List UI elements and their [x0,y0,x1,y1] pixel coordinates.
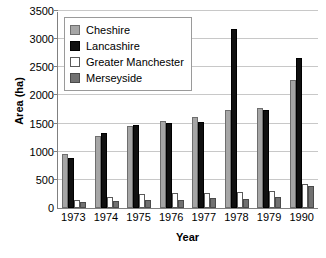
gridline-3500 [58,10,318,11]
x-tick-label-1990: 1990 [285,210,318,224]
x-axis-tick-labels: 19731974197519761977197819791990 [57,210,318,224]
bar-merseyside-1975 [145,200,151,208]
bar-group-1978 [221,12,254,208]
legend-swatch-lancashire-icon [70,41,80,51]
x-tick-label-1973: 1973 [57,210,90,224]
bar-merseyside-1977 [210,198,216,208]
legend-label-greater-manchester: Greater Manchester [86,56,184,68]
bar-merseyside-1976 [178,200,184,208]
legend-item-lancashire: Lancashire [70,38,184,54]
legend-item-cheshire: Cheshire [70,22,184,38]
y-tick-label-3500: 3500 [14,6,54,17]
bar-merseyside-1974 [113,201,119,208]
y-tick-mark-3500 [54,10,58,11]
x-tick-label-1975: 1975 [122,210,155,224]
legend-swatch-merseyside-icon [70,73,80,83]
legend: CheshireLancashireGreater ManchesterMers… [64,17,192,91]
y-tick-label-1000: 1000 [14,147,54,158]
bar-merseyside-1979 [275,197,281,208]
x-tick-label-1978: 1978 [220,210,253,224]
legend-swatch-greater-manchester-icon [70,57,80,67]
bar-merseyside-1973 [80,202,86,208]
legend-swatch-cheshire-icon [70,25,80,35]
bar-group-1979 [253,12,286,208]
x-axis-title: Year [57,231,318,243]
legend-item-merseyside: Merseyside [70,70,184,86]
bar-group-1977 [188,12,221,208]
y-tick-label-1500: 1500 [14,119,54,130]
bar-merseyside-1990 [308,186,314,208]
legend-item-greater-manchester: Greater Manchester [70,54,184,70]
y-tick-label-0: 0 [14,203,54,214]
bar-lancashire-1978 [231,29,237,208]
y-tick-label-2500: 2500 [14,62,54,73]
legend-label-merseyside: Merseyside [86,72,142,84]
x-tick-label-1979: 1979 [253,210,286,224]
y-tick-label-2000: 2000 [14,90,54,101]
y-tick-label-500: 500 [14,175,54,186]
x-tick-label-1974: 1974 [90,210,123,224]
bar-merseyside-1978 [243,199,249,208]
x-tick-label-1976: 1976 [155,210,188,224]
x-tick-label-1977: 1977 [188,210,221,224]
legend-label-lancashire: Lancashire [86,40,140,52]
y-tick-label-3000: 3000 [14,34,54,45]
legend-label-cheshire: Cheshire [86,24,130,36]
bar-group-1990 [286,12,319,208]
bar-chart: Area (ha) 0500100015002000250030003500 1… [0,0,326,258]
